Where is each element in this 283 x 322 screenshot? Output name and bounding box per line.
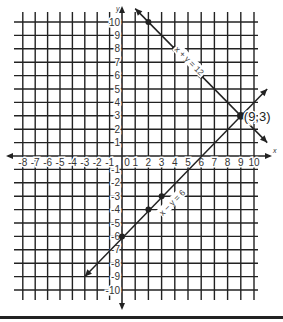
y-tick-label: 4 [114, 97, 120, 108]
x-tick-label: -2 [93, 157, 102, 168]
x-axis-arrow-right-icon [265, 153, 272, 159]
y-tick-label: 7 [114, 57, 120, 68]
x-tick-label: 10 [248, 157, 260, 168]
y-axis-arrow-down-icon [119, 303, 125, 310]
y-tick-label: -7 [111, 244, 120, 255]
y-tick-label: -4 [111, 204, 120, 215]
x-axis-label: x [272, 147, 277, 154]
y-tick-label: -10 [106, 285, 121, 296]
y-tick-label: -9 [111, 271, 120, 282]
y-tick-label: -3 [111, 191, 120, 202]
x-tick-label: 2 [146, 157, 152, 168]
y-tick-label: -1 [111, 164, 120, 175]
x-tick-label: 0 [124, 157, 130, 168]
y-tick-label: -8 [111, 258, 120, 269]
x-tick-label: -6 [43, 157, 52, 168]
data-point [145, 19, 151, 25]
bottom-rule [0, 316, 283, 319]
data-point [119, 233, 125, 239]
x-tick-label: 8 [225, 157, 231, 168]
y-tick-label: 10 [109, 17, 121, 28]
y-tick-label: 3 [114, 110, 120, 121]
x-tick-label: -7 [31, 157, 40, 168]
data-point [145, 207, 151, 213]
y-tick-label: -5 [111, 218, 120, 229]
y-tick-label: 1 [114, 137, 120, 148]
coordinate-plane: xy-8-7-6-5-4-3-2-1012345678910-10-9-8-7-… [0, 0, 283, 322]
y-tick-label: 2 [114, 124, 120, 135]
x-tick-label: 7 [212, 157, 218, 168]
x-tick-label: 9 [238, 157, 244, 168]
intersection-label: (9,3) [244, 109, 271, 124]
x-tick-label: -8 [18, 157, 27, 168]
y-tick-label: 5 [114, 84, 120, 95]
y-axis-label: y [115, 5, 120, 13]
x-tick-label: 1 [132, 157, 138, 168]
x-axis-arrow-left-icon [6, 153, 13, 159]
x-tick-label: -3 [80, 157, 89, 168]
y-tick-label: -2 [111, 177, 120, 188]
y-tick-label: 6 [114, 70, 120, 81]
x-tick-label: 3 [159, 157, 165, 168]
x-tick-label: 5 [185, 157, 191, 168]
y-axis-arrow-up-icon [119, 6, 125, 13]
x-tick-label: -5 [56, 157, 65, 168]
data-point [159, 193, 165, 199]
x-tick-label: 4 [172, 157, 178, 168]
y-tick-label: 8 [114, 43, 120, 54]
y-tick-label: 9 [114, 30, 120, 41]
x-tick-label: -4 [68, 157, 77, 168]
